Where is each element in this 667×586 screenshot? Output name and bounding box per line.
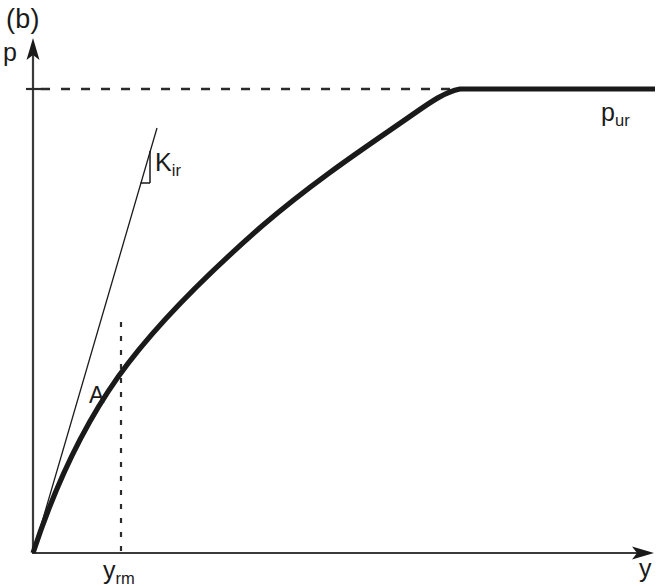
x-axis-label: y [639,556,652,581]
reference-displacement-label: yrm [103,558,135,583]
reference-displacement-label-base: y [103,556,116,584]
ultimate-resistance-label-subscript: ur [615,111,630,129]
reference-displacement-label-subscript: rm [116,569,135,586]
ultimate-resistance-label: pur [601,100,630,125]
ultimate-resistance-label-base: p [601,98,615,126]
y-axis [27,38,40,553]
figure-container: (b) p y Kir pur yrm A [0,0,667,586]
y-axis-label: p [3,40,17,65]
panel-label: (b) [6,6,40,33]
point-a-label: A [89,384,104,407]
stiffness-label: Kir [155,150,181,175]
stiffness-label-base: K [155,148,172,176]
py-response-curve [33,89,655,553]
plot-canvas [0,0,667,586]
initial-stiffness-tangent-line [33,128,157,553]
stiffness-label-subscript: ir [172,161,181,179]
